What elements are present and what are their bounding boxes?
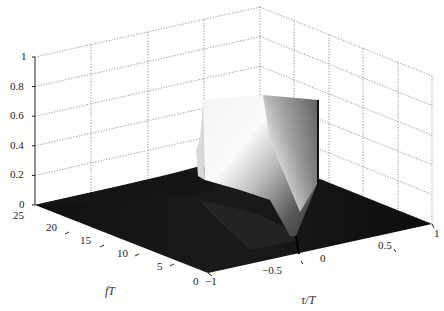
y-tick-0: 0 [193, 276, 199, 287]
z-tick-0.8: 0.8 [10, 81, 24, 92]
z-axis [32, 57, 35, 205]
z-tick-0.2: 0.2 [10, 169, 24, 180]
y-axis-label: fT [105, 284, 115, 299]
z-tick-0.6: 0.6 [10, 110, 24, 121]
surface-plot [0, 0, 444, 311]
y-tick-25: 25 [13, 210, 24, 221]
x-tick-neg1: −1 [205, 276, 217, 287]
y-tick-15: 15 [80, 235, 91, 246]
x-axis-label: τ/T [301, 293, 315, 308]
x-tick-0: 0 [320, 253, 326, 264]
y-tick-20: 20 [46, 222, 57, 233]
y-tick-10: 10 [117, 248, 128, 259]
x-tick-1: 1 [434, 228, 440, 239]
x-tick-0.5: 0.5 [378, 240, 392, 251]
y-tick-5: 5 [157, 261, 163, 272]
z-tick-1: 1 [21, 51, 27, 62]
z-tick-0.4: 0.4 [10, 140, 24, 151]
x-tick-neg0.5: −0.5 [262, 265, 282, 276]
